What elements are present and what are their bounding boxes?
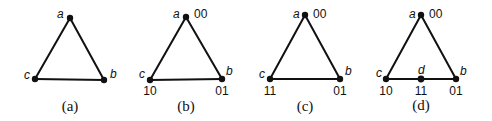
edge-a-b [305,15,340,79]
vertex-code-a: 00 [429,7,443,21]
vertex-code-c: 11 [264,84,277,98]
edge-a-b [421,15,456,79]
vertex-code-b: 01 [333,84,347,98]
edge-a-b [70,18,104,80]
edge-a-c [35,18,70,79]
panel-b: a 00 c 10 b 01 (b) [139,7,233,115]
edge-a-b [186,17,222,79]
vertex-label-a: a [173,7,180,21]
vertex-c [267,76,273,82]
vertex-a [67,15,73,21]
vertex-code-b: 01 [215,84,229,98]
vertex-label-a: a [57,7,64,21]
vertex-code-c: 10 [143,84,157,98]
vertex-label-c: c [24,68,30,82]
vertex-c [32,76,38,82]
vertex-label-c: c [376,66,382,80]
vertex-code-a: 00 [194,7,208,21]
vertex-c [383,76,389,82]
vertex-label-d: d [418,63,425,77]
vertex-a [418,12,424,18]
vertex-code-d: 11 [415,84,428,98]
edge-c-b [35,79,104,80]
vertex-b [101,77,107,83]
panel-d: a 00 c 10 d 11 b 01 (d) [376,7,467,114]
panel-caption: (c) [297,98,314,115]
vertex-label-c: c [139,67,145,81]
edge-a-c [270,15,305,79]
panel-caption: (d) [412,97,430,114]
triangle-graph-figure: a c b (a) a 00 c 10 b 01 (b) a 00 c 11 b… [0,0,492,121]
panel-caption: (a) [62,98,79,115]
edge-a-c [150,17,186,80]
vertex-code-a: 00 [313,7,327,21]
vertex-code-c: 10 [379,84,393,98]
vertex-c [147,77,153,83]
vertex-code-b: 01 [449,84,463,98]
vertex-b [219,76,225,82]
vertex-label-a: a [409,7,416,21]
vertex-label-b: b [226,64,233,78]
panel-a: a c b (a) [24,7,117,115]
vertex-b [337,76,343,82]
panel-c: a 00 c 11 b 01 (c) [259,7,352,115]
vertex-label-b: b [460,64,467,78]
vertex-b [453,76,459,82]
vertex-a [183,14,189,20]
vertex-a [302,12,308,18]
vertex-label-a: a [293,7,300,21]
vertex-label-c: c [259,67,265,81]
edge-c-b [150,79,222,80]
vertex-label-b: b [345,64,352,78]
vertex-label-b: b [110,67,117,81]
edge-a-c [386,15,421,79]
panel-caption: (b) [177,98,195,115]
